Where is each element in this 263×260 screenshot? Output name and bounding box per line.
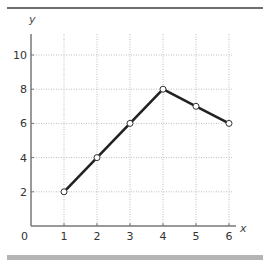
- data-series: [61, 86, 232, 195]
- tick-labels: 123456246810: [13, 49, 233, 243]
- x-tick-label: 6: [226, 230, 233, 243]
- x-tick-label: 2: [94, 230, 101, 243]
- series-line: [64, 89, 229, 192]
- y-axis-label: y: [28, 13, 36, 26]
- x-tick-label: 3: [127, 230, 134, 243]
- data-point-marker: [160, 86, 166, 92]
- data-point-marker: [61, 189, 67, 195]
- data-point-marker: [226, 120, 232, 126]
- origin-label: 0: [21, 230, 28, 243]
- data-point-marker: [94, 155, 100, 161]
- x-tick-label: 1: [61, 230, 68, 243]
- bottom-bar: [7, 255, 263, 260]
- data-point-marker: [193, 103, 199, 109]
- y-tick-label: 4: [20, 152, 27, 165]
- data-point-marker: [127, 120, 133, 126]
- y-tick-label: 6: [20, 117, 27, 130]
- line-chart: 123456246810 y x 0: [0, 0, 263, 260]
- y-tick-label: 10: [13, 49, 27, 62]
- gridlines: [31, 34, 232, 226]
- y-tick-label: 8: [20, 83, 27, 96]
- x-tick-label: 4: [160, 230, 167, 243]
- x-tick-label: 5: [193, 230, 200, 243]
- x-axis-label: x: [239, 222, 247, 235]
- axes: [31, 34, 236, 226]
- y-tick-label: 2: [20, 186, 27, 199]
